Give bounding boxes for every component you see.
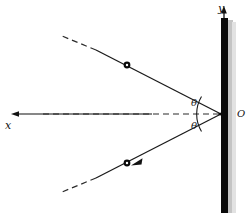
lower-ray [96,115,219,178]
origin-label: O [237,109,245,119]
angle-label-lower: θ [191,121,197,131]
wall [221,18,228,213]
upper-ray [96,50,219,113]
physics-diagram: y x O θ θ [0,0,252,220]
upper-ray-dashed-extension [62,36,96,50]
figure-caption [104,209,152,217]
x-axis-arrowhead [11,111,19,117]
wall-shadow-soft [232,22,236,213]
diagram-canvas [0,0,252,220]
particle-upper-core [126,64,128,66]
angle-label-upper: θ [191,98,197,108]
origin-point [218,112,221,115]
y-axis-label: y [218,3,224,14]
lower-ray-dashed-extension [62,178,96,192]
x-axis-label: x [5,120,11,131]
particle-lower-core [126,162,128,164]
